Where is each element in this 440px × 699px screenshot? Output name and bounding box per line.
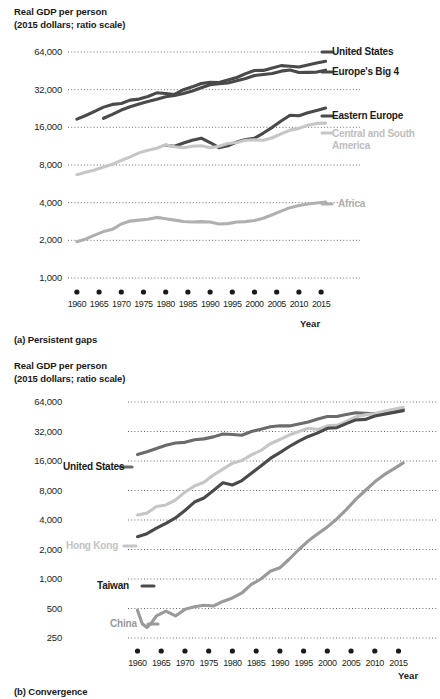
y-axis-tick-label: 2,000 — [4, 234, 62, 245]
x-axis-tick-dot — [96, 289, 101, 294]
series-line-taiwan — [137, 411, 403, 537]
y-axis-tick-label: 16,000 — [4, 455, 62, 466]
x-axis-tick-dot — [208, 289, 213, 294]
x-axis-tick-dot — [230, 648, 235, 653]
series-label-hong-kong: Hong Kong — [66, 540, 118, 552]
x-axis-tick-dot — [325, 648, 330, 653]
series-label-central-and-south-america: Central and South America — [332, 128, 440, 152]
y-axis-tick-label: 1,000 — [4, 272, 62, 283]
y-axis-tick-label: 500 — [4, 603, 62, 614]
x-axis-tick-label: 2015 — [306, 299, 336, 309]
y-axis-tick-label: 32,000 — [4, 84, 62, 95]
x-axis-tick-dot — [230, 289, 235, 294]
y-axis-tick-label: 4,000 — [4, 197, 62, 208]
series-line-china — [137, 463, 403, 628]
x-axis-tick-label: 2015 — [384, 658, 414, 668]
series-label-china: China — [110, 618, 137, 630]
x-axis-tick-dot — [252, 289, 257, 294]
y-axis-tick-label: 32,000 — [4, 426, 62, 437]
y-axis-tick-label: 250 — [4, 632, 62, 643]
series-line-central-and-south-america — [77, 123, 326, 175]
x-axis-tick-dot — [296, 289, 301, 294]
x-axis-tick-dot — [254, 648, 259, 653]
x-axis-tick-dot — [182, 648, 187, 653]
x-axis-tick-dot — [135, 648, 140, 653]
series-line-africa — [77, 202, 326, 242]
chart-a-x-axis-label: Year — [300, 318, 320, 329]
x-axis-tick-dot — [277, 648, 282, 653]
y-axis-tick-label: 2,000 — [4, 544, 62, 555]
x-axis-tick-dot — [206, 648, 211, 653]
y-axis-tick-label: 64,000 — [4, 46, 62, 57]
chart-panel-convergence: Real GDP per person (2015 dollars; ratio… — [0, 348, 440, 699]
x-axis-tick-dot — [372, 648, 377, 653]
caption-b: (b) Convergence — [14, 686, 87, 697]
y-axis-tick-label: 16,000 — [4, 121, 62, 132]
series-label-united-states-b: United States — [63, 461, 124, 473]
x-axis-tick-dot — [141, 289, 146, 294]
x-axis-tick-dot — [119, 289, 124, 294]
series-line-hong-kong — [137, 407, 403, 515]
x-axis-tick-dot — [185, 289, 190, 294]
y-axis-tick-label: 8,000 — [4, 485, 62, 496]
x-axis-tick-dot — [319, 289, 324, 294]
series-label-europes-big-4: Europe's Big 4 — [332, 66, 399, 78]
caption-a: (a) Persistent gaps — [14, 334, 97, 345]
series-label-taiwan: Taiwan — [97, 580, 129, 592]
y-axis-tick-label: 8,000 — [4, 159, 62, 170]
y-axis-tick-label: 1,000 — [4, 573, 62, 584]
x-axis-tick-dot — [163, 289, 168, 294]
y-axis-tick-label: 64,000 — [4, 396, 62, 407]
series-label-eastern-europe: Eastern Europe — [332, 110, 403, 122]
x-axis-tick-dot — [274, 289, 279, 294]
x-axis-tick-dot — [348, 648, 353, 653]
series-label-united-states: United States — [332, 46, 393, 58]
x-axis-tick-dot — [74, 289, 79, 294]
chart-b-plot — [0, 348, 440, 699]
y-axis-tick-label: 4,000 — [4, 514, 62, 525]
x-axis-tick-dot — [396, 648, 401, 653]
series-label-africa: Africa — [338, 198, 365, 210]
chart-b-x-axis-label: Year — [398, 670, 418, 681]
x-axis-tick-dot — [159, 648, 164, 653]
series-line-europe-s-big-4 — [104, 70, 326, 118]
x-axis-tick-dot — [301, 648, 306, 653]
chart-panel-persistent-gaps: Real GDP per person (2015 dollars; ratio… — [0, 0, 440, 348]
